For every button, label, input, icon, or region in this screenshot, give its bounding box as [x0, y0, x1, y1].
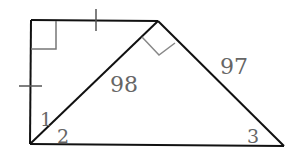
right-side-length-label: 97 [220, 54, 248, 79]
angle-2-label: 2 [57, 125, 69, 147]
right-angle-mark-top-left [31, 21, 56, 49]
diagonal-length-label: 98 [110, 72, 138, 97]
right-side [158, 21, 284, 146]
left-side [30, 20, 31, 144]
angle-3-label: 3 [247, 125, 259, 147]
geometry-diagram: 98 97 1 2 3 [0, 0, 292, 158]
right-angle-mark-top-right [142, 37, 175, 55]
angle-1-label: 1 [40, 108, 52, 130]
top-side [31, 20, 158, 21]
